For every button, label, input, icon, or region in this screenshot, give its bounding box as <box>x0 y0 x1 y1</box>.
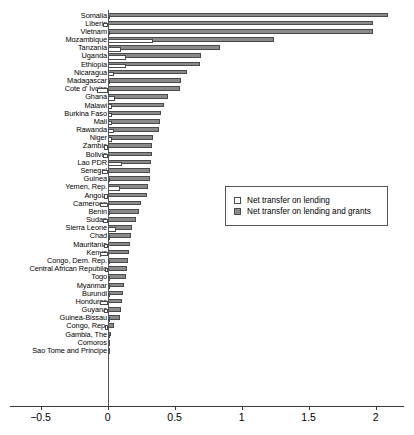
bar-lending-and-grants <box>108 13 388 18</box>
category-label: Sao Tome and Principe <box>32 347 107 354</box>
chart-row: Madagascar <box>0 77 414 85</box>
x-axis-tick-label: 1 <box>239 411 245 423</box>
legend-label-lending: Net transfer on lending <box>247 196 330 205</box>
chart-row: Lao PDR <box>0 159 414 167</box>
x-axis-tick <box>108 406 109 410</box>
horizontal-bar-chart: SomaliaLiberiaVietnamMozambiqueTanzaniaU… <box>0 0 414 435</box>
x-axis-tick-label: −0.5 <box>30 411 51 423</box>
zero-reference-line <box>108 10 109 406</box>
chart-row: Mauritania <box>0 241 414 249</box>
bar-lending <box>108 162 123 166</box>
bar-lending-and-grants <box>108 291 123 296</box>
chart-row: Mali <box>0 118 414 126</box>
bar-lending-and-grants <box>108 103 164 108</box>
bar-lending-and-grants <box>108 152 152 157</box>
chart-row: Congo, Rep. <box>0 322 414 330</box>
bar-lending-and-grants <box>108 283 124 288</box>
bar-lending <box>108 39 154 43</box>
x-axis-tick-label: 0.5 <box>167 411 182 423</box>
bar-lending-and-grants <box>108 127 160 132</box>
x-axis-tick-label: 2 <box>373 411 379 423</box>
chart-row: Guinea-Bissau <box>0 314 414 322</box>
bar-lending-and-grants <box>108 29 373 34</box>
chart-row: Uganda <box>0 52 414 60</box>
bar-lending-and-grants <box>108 266 128 271</box>
bar-lending-and-grants <box>108 299 122 304</box>
bar-lending <box>108 64 127 68</box>
bar-lending-and-grants <box>108 274 126 279</box>
bar-lending-and-grants <box>108 323 114 328</box>
x-axis-tick-label: 0 <box>105 411 111 423</box>
chart-row: Liberia <box>0 20 414 28</box>
bar-lending-and-grants <box>108 258 128 263</box>
chart-row: Niger <box>0 134 414 142</box>
bar-lending-and-grants <box>108 70 187 75</box>
bar-lending-and-grants <box>108 193 148 198</box>
bar-lending-and-grants <box>108 176 150 181</box>
bar-lending-and-grants <box>108 111 161 116</box>
x-axis-tick <box>175 406 176 410</box>
bar-lending <box>108 47 121 51</box>
bar-lending-and-grants <box>108 45 221 50</box>
bar-lending-and-grants <box>108 250 129 255</box>
chart-row: Rawanda <box>0 126 414 134</box>
x-axis-tick <box>309 406 310 410</box>
legend-item-lending: Net transfer on lending <box>234 196 380 205</box>
bar-lending-and-grants <box>108 233 131 238</box>
bar-lending <box>108 72 115 76</box>
chart-row: Ghana <box>0 93 414 101</box>
bar-lending-and-grants <box>108 135 154 140</box>
legend-swatch-lending <box>234 197 241 204</box>
chart-row: Honduras <box>0 298 414 306</box>
chart-row: Somalia <box>0 12 414 20</box>
x-axis-tick <box>41 406 42 410</box>
chart-row: Nicaragua <box>0 69 414 77</box>
bar-lending <box>108 129 115 133</box>
x-axis-line <box>10 406 404 407</box>
chart-row: Sao Tome and Principe <box>0 347 414 355</box>
chart-row: Burundi <box>0 290 414 298</box>
legend-swatch-lending-and-grants <box>234 208 241 215</box>
bar-lending-and-grants <box>108 217 137 222</box>
bar-lending <box>108 55 127 59</box>
x-axis-tick <box>242 406 243 410</box>
bar-lending-and-grants <box>108 78 181 83</box>
bar-lending <box>108 186 121 190</box>
bar-lending-and-grants <box>108 307 121 312</box>
legend-label-lending-and-grants: Net transfer on lending and grants <box>247 207 371 216</box>
x-axis-tick-label: 1.5 <box>301 411 316 423</box>
bar-lending-and-grants <box>108 21 373 26</box>
chart-row: Togo <box>0 273 414 281</box>
chart-row: Myanmar <box>0 281 414 289</box>
bar-lending <box>108 227 116 231</box>
chart-row: Gambia, The <box>0 331 414 339</box>
chart-row: Cote d' Ivoire <box>0 85 414 93</box>
bar-lending-and-grants <box>108 86 180 91</box>
chart-row: Guinea <box>0 175 414 183</box>
bar-lending-and-grants <box>108 94 168 99</box>
x-axis-tick <box>376 406 377 410</box>
bar-lending-and-grants <box>108 242 130 247</box>
chart-row: Senegal <box>0 167 414 175</box>
chart-row: Malawi <box>0 101 414 109</box>
chart-row: Bolivia <box>0 151 414 159</box>
chart-row: Ethiopia <box>0 61 414 69</box>
chart-row: Vietnam <box>0 28 414 36</box>
bar-lending-and-grants <box>108 168 151 173</box>
chart-row: Chad <box>0 232 414 240</box>
chart-row: Zambia <box>0 142 414 150</box>
chart-row: Central African Republic <box>0 265 414 273</box>
chart-row: Burkina Faso <box>0 110 414 118</box>
bar-lending-and-grants <box>108 119 160 124</box>
legend-item-lending-and-grants: Net transfer on lending and grants <box>234 207 380 216</box>
bar-lending-and-grants <box>108 143 152 148</box>
bar-lending-and-grants <box>108 201 142 206</box>
bar-lending-and-grants <box>108 209 139 214</box>
chart-legend: Net transfer on lending Net transfer on … <box>225 186 388 226</box>
chart-row: Mozambique <box>0 36 414 44</box>
chart-row: Tanzania <box>0 44 414 52</box>
bar-lending <box>108 96 115 100</box>
